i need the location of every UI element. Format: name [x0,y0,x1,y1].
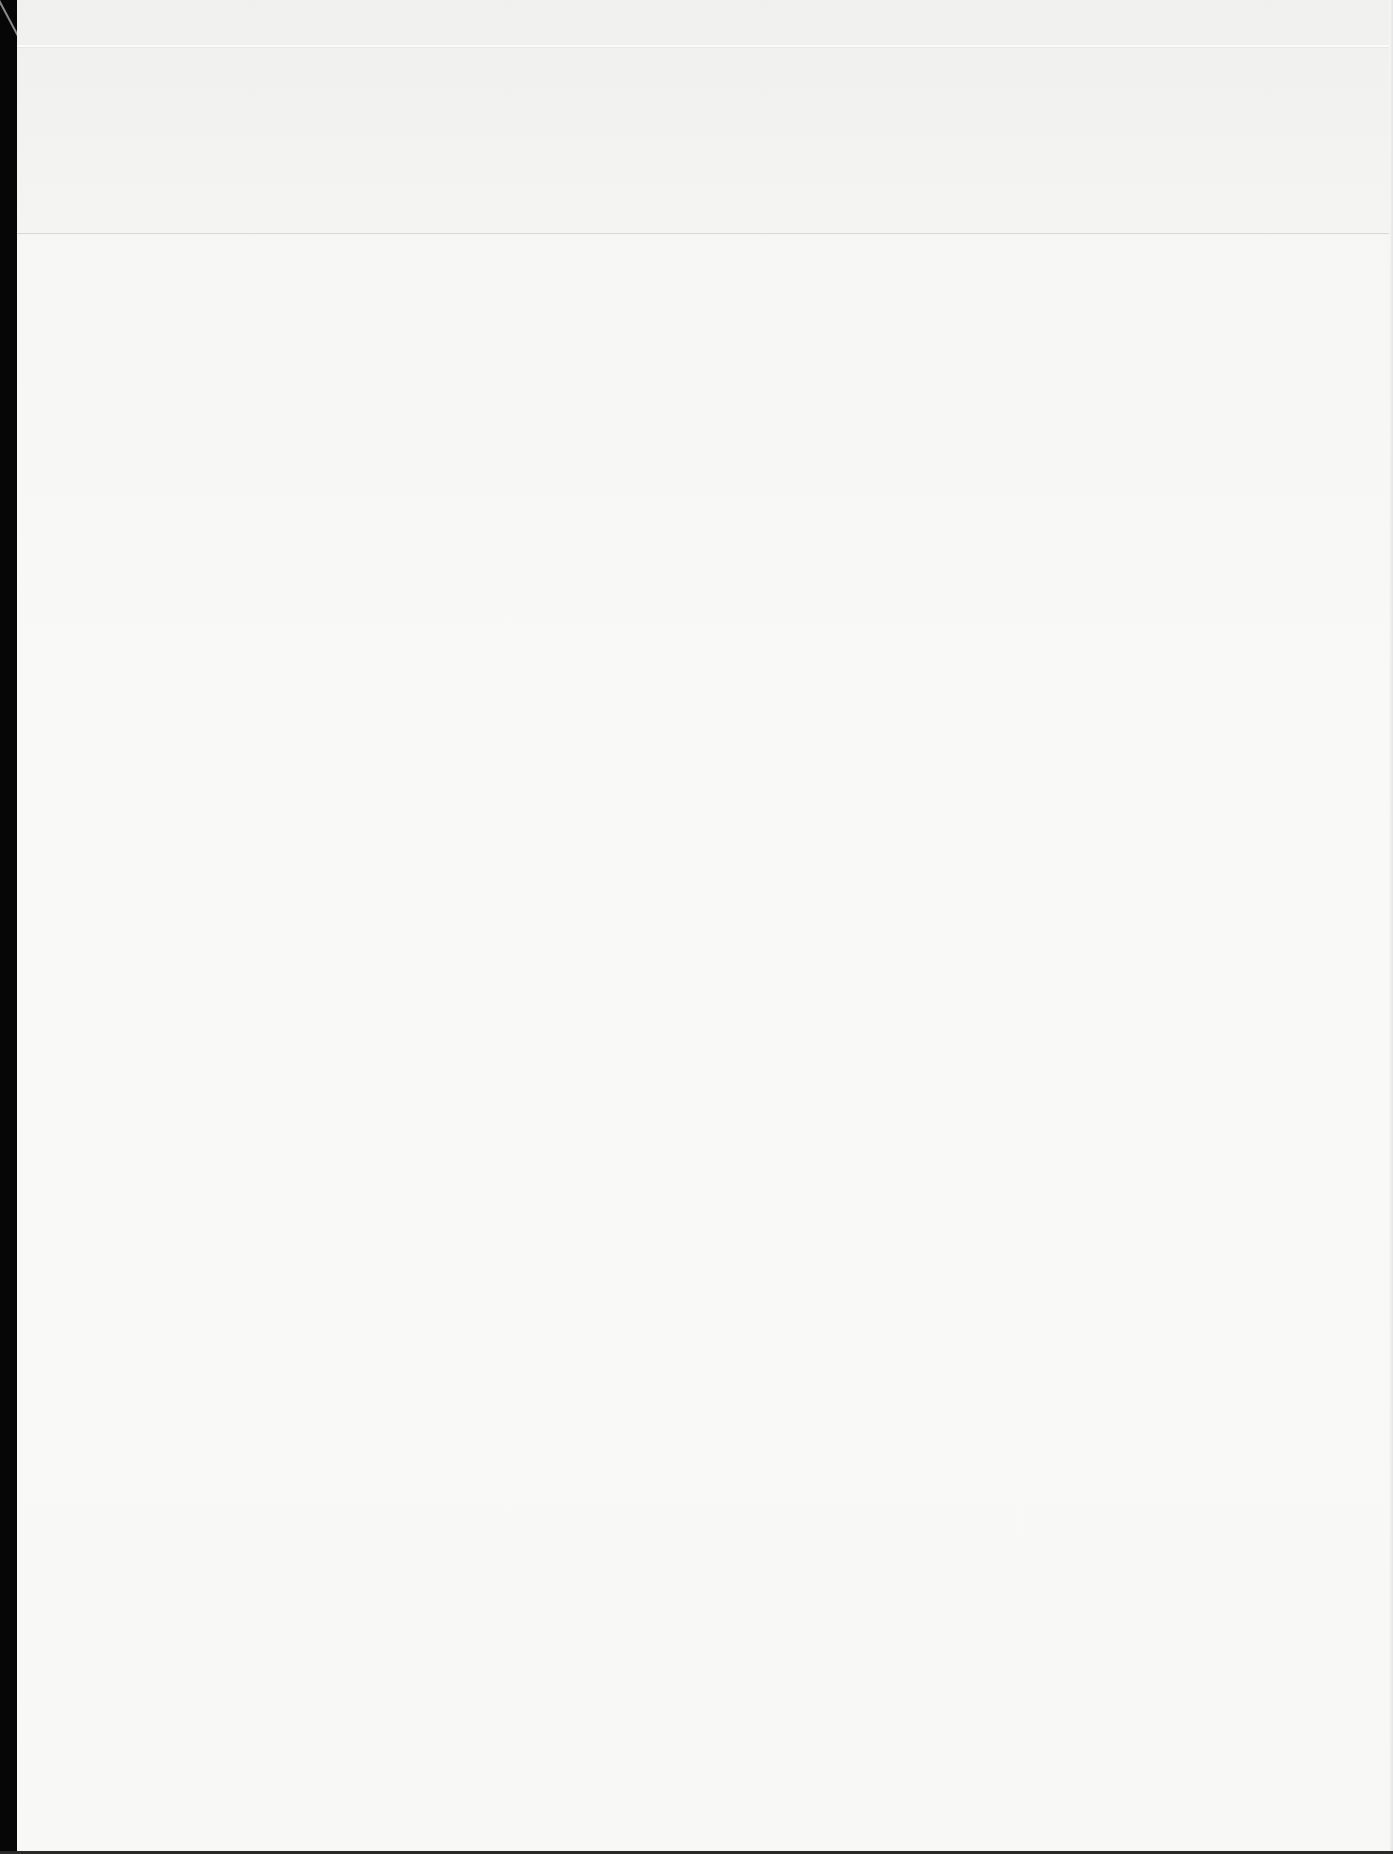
header-divider-line [17,233,1393,234]
blank-paper-sheet [17,0,1393,1854]
scanner-border-left [0,0,17,1854]
top-crease-line [17,45,1393,47]
paper-right-edge [1389,0,1393,1854]
scanned-page [0,0,1393,1854]
header-band [17,0,1393,235]
